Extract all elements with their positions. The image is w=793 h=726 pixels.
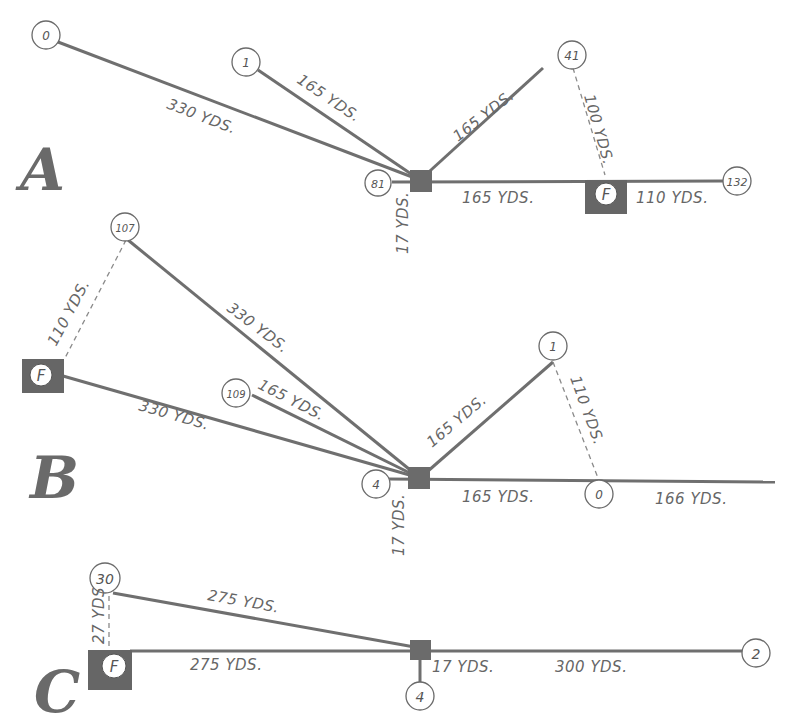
fire-box-c: F [88,650,132,690]
label-165-yds-main: 165 YDS. [462,189,534,207]
svg-text:30: 30 [96,571,114,587]
node-0: 0 [585,480,613,508]
svg-text:4: 4 [372,478,380,492]
node-0: 0 [32,21,60,49]
label-110-yds-1-0: 110 YDS. [566,373,608,447]
label-17-yds: 17 YDS. [390,494,408,556]
node-107: 107 [111,213,139,241]
svg-text:0: 0 [595,488,603,502]
label-110-yds-fire-107: 110 YDS. [44,276,94,348]
fire-box-b: F [22,359,64,393]
label-330-yds: 330 YDS. [165,95,239,138]
node-2: 2 [742,639,770,667]
label-165-yds-1: 165 YDS. [423,391,490,451]
hub-junction-a [410,170,432,192]
label-110-yds: 110 YDS. [636,189,708,207]
label-17-yds: 17 YDS. [432,658,494,676]
node-109: 109 [222,379,250,407]
svg-text:41: 41 [564,49,579,63]
label-27-yds: 27 YDS [90,587,108,644]
diagram-c: C F 30 4 2 27 YDS 275 YDS. 275 YDS. 17 Y… [34,563,770,726]
diagram-letter-c: C [34,658,80,726]
svg-text:132: 132 [727,176,748,189]
line-1-to-hub [420,362,553,478]
node-132: 132 [723,167,751,195]
diagram-letter-a: A [15,136,65,204]
label-165-yds-main: 165 YDS. [462,488,534,506]
svg-text:1: 1 [549,340,557,354]
node-1: 1 [539,332,567,360]
label-17-yds: 17 YDS. [394,192,412,254]
svg-text:F: F [37,367,46,385]
label-300-yds: 300 YDS. [555,658,627,676]
label-100-yds: 100 YDS. [580,92,617,167]
label-330-yds-fire: 330 YDS. [137,397,212,434]
fire-box-a: F [585,180,627,214]
node-1: 1 [232,48,260,76]
node-4: 4 [406,682,434,710]
svg-text:107: 107 [115,223,135,234]
svg-text:109: 109 [226,389,245,400]
svg-text:2: 2 [752,646,761,662]
diagram-canvas: A F 0 1 41 81 132 330 YDS. 165 YDS. 165 … [0,0,793,726]
hub-junction-c [410,640,431,660]
line-107-to-hub [128,240,420,478]
diagram-b: B F 107 109 1 4 0 110 YDS. 330 YDS. [22,213,775,556]
svg-text:1: 1 [242,56,250,70]
svg-text:0: 0 [42,29,50,43]
svg-text:4: 4 [416,689,425,705]
main-line-a [392,181,723,182]
line-1-to-hub [258,70,420,180]
label-275-yds-main: 275 YDS. [190,656,262,674]
node-4: 4 [362,470,390,498]
svg-text:F: F [602,186,611,204]
label-165-yds-41: 165 YDS. [449,86,517,145]
hub-junction-b [408,467,430,489]
diagram-letter-b: B [28,444,79,512]
node-81: 81 [365,170,391,196]
svg-text:F: F [110,658,119,676]
main-line-b [388,479,775,482]
label-166-yds: 166 YDS. [655,490,727,508]
node-41: 41 [558,41,586,69]
label-165-yds-109: 165 YDS. [255,376,328,425]
svg-text:81: 81 [371,178,385,191]
